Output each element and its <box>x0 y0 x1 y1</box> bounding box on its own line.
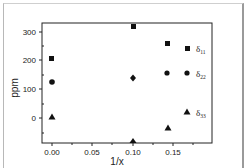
x-axis-title: 1/x <box>110 156 123 167</box>
x-tick-label: 0.05 <box>84 148 100 157</box>
y-tick-label: 300 <box>23 28 37 37</box>
square-marker <box>185 46 190 51</box>
circle-marker <box>164 70 169 75</box>
series-d22 <box>49 70 189 84</box>
legend: δ11 δ22 δ33 <box>196 44 206 119</box>
y-tick-label: 100 <box>23 85 37 94</box>
triangle-marker <box>49 114 56 120</box>
square-marker <box>49 56 54 61</box>
triangle-marker <box>184 109 191 115</box>
scatter-chart: 0 100 200 300 0.00 0.05 0.10 0.15 1/x pp… <box>0 0 246 168</box>
series-d11 <box>49 24 190 61</box>
y-tick-label: 0 <box>32 114 37 123</box>
square-marker <box>131 24 136 29</box>
x-tick-label: 0.10 <box>125 148 141 157</box>
triangle-marker <box>165 125 172 131</box>
y-tick-label: 200 <box>23 56 37 65</box>
y-axis-title: ppm <box>9 78 20 97</box>
legend-label-d22: δ22 <box>196 69 206 80</box>
triangle-marker <box>130 138 137 143</box>
x-tick-label: 0.00 <box>44 148 60 157</box>
plot-frame <box>42 23 212 143</box>
square-marker <box>165 41 170 46</box>
legend-label-d11: δ11 <box>196 44 206 55</box>
legend-label-d33: δ33 <box>196 108 206 119</box>
circle-marker <box>49 79 55 85</box>
x-tick-label: 0.15 <box>165 148 181 157</box>
diamond-marker <box>130 75 136 82</box>
series-d33 <box>49 109 191 144</box>
circle-marker <box>184 70 189 75</box>
